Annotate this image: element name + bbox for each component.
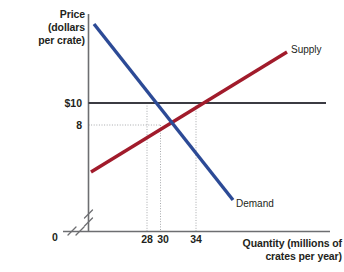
y-tick-label-8: 8 [24,119,82,131]
demand-curve [94,24,233,200]
x-tick-label-34: 34 [182,233,210,245]
x-axis-title-line-1: Quantity (millions of [243,237,342,249]
y-tick-label-10: $10 [24,97,82,109]
demand-curve-label: Demand [236,198,274,209]
y-axis-title-line-3: per crate) [38,34,85,46]
y-axis-title-line-1: Price [60,8,85,20]
x-axis-title-line-2: crates per year) [265,250,342,262]
origin-label: 0 [43,231,67,243]
y-axis-title-line-2: (dollars [48,21,85,33]
supply-demand-chart: Price(dollarsper crate) Quantity (millio… [0,0,344,272]
dotted-guides [89,103,197,231]
x-tick-label-30: 30 [149,233,177,245]
y-axis-title: Price(dollarsper crate) [0,8,85,48]
supply-curve-label: Supply [291,44,322,55]
supply-curve [91,52,287,172]
axes [63,14,330,232]
x-axis-title: Quantity (millions ofcrates per year) [216,237,342,263]
